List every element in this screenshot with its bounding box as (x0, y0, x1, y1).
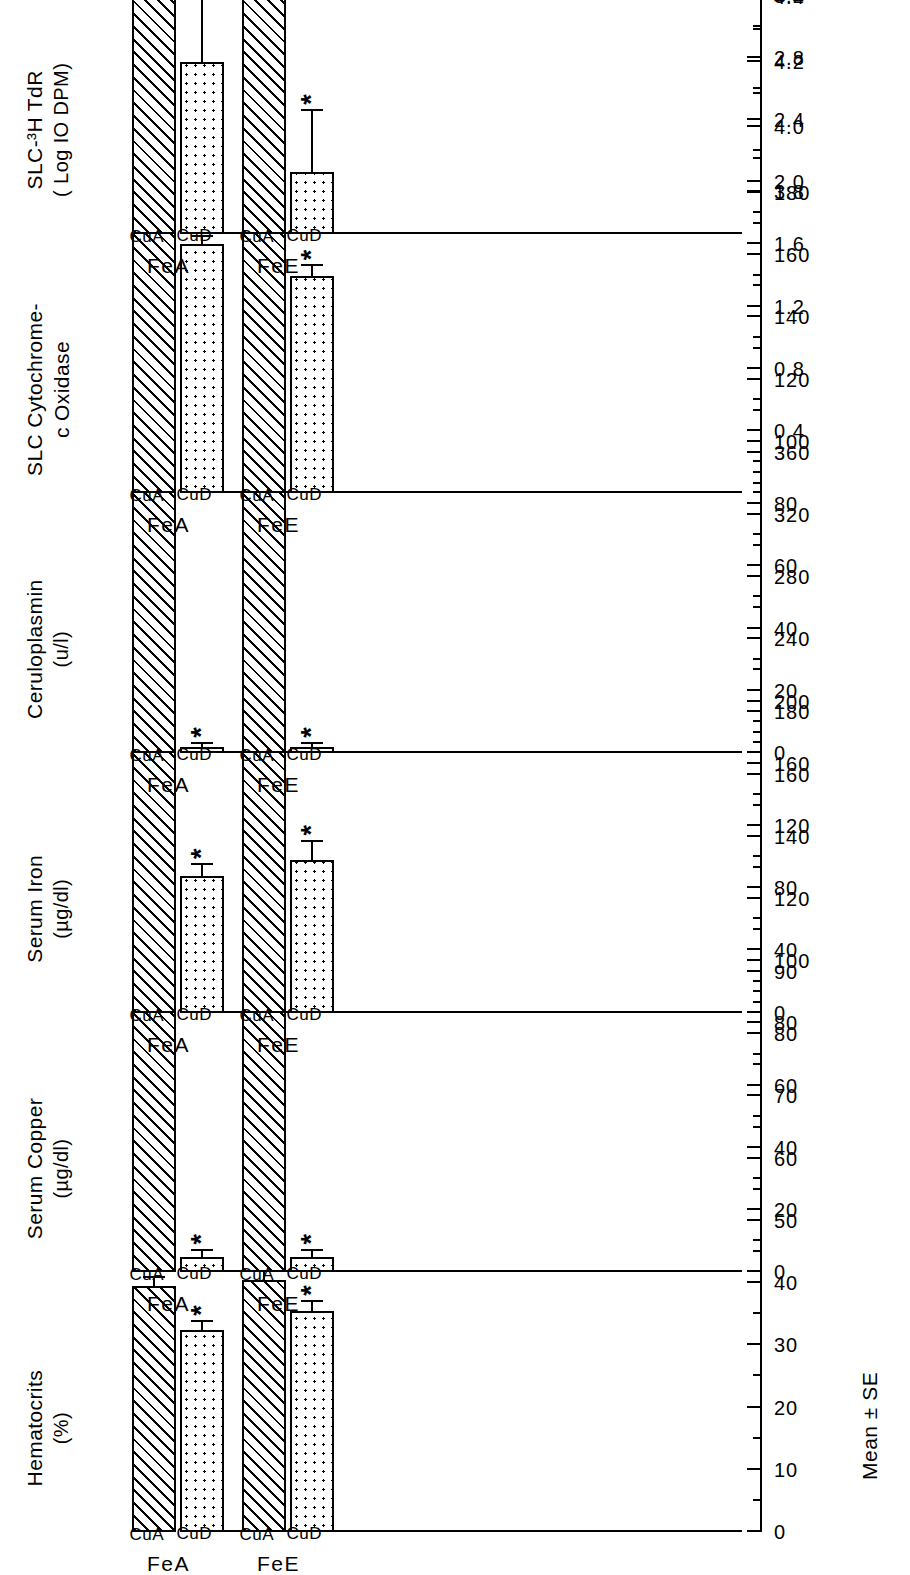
panel-title: SLC-³H TdR( Log IO DPM) (22, 0, 74, 260)
axis-tick-label: 0 (774, 1001, 786, 1024)
axis-tick-label: 60 (774, 1074, 798, 1097)
significance-asterisk: * (188, 727, 215, 738)
axis-tick-major (747, 689, 760, 691)
error-bar-cap (301, 1249, 323, 1251)
bar-fee-cud (290, 276, 334, 494)
panel-subtitle-text: ( Log IO DPM) (49, 0, 75, 260)
axis-tick-major (747, 1208, 760, 1210)
axis-tick-major (747, 948, 760, 950)
category-sublabel: CuA (129, 746, 164, 766)
significance-asterisk: * (188, 1234, 215, 1245)
axis-tick-label: 1.2 (774, 295, 805, 318)
axis-tick-major (747, 1084, 760, 1086)
error-bar-line (311, 1251, 313, 1257)
chart-panel-2: Serum Copper(µg/dl)020406080100120140160… (0, 1039, 910, 1299)
axis-tick-major (747, 367, 760, 369)
category-sublabel: CuD (176, 1524, 212, 1544)
panel-title: Serum Iron(µg/dl) (22, 779, 74, 1039)
significance-asterisk: * (298, 727, 325, 738)
axis-tick-major (747, 1530, 760, 1532)
bar-fea-cud (180, 1330, 224, 1532)
group-label-fee: FeE (257, 514, 300, 538)
error-bar-line (311, 111, 313, 173)
axis-tick-major (747, 60, 760, 62)
category-sublabel: CuD (176, 745, 212, 765)
axis-tick-minor (753, 1437, 760, 1439)
panel-title: SLC Cytochrome- c Oxidase (22, 260, 76, 520)
axis-tick-major (747, 564, 760, 566)
panel-title: Serum Copper(µg/dl) (22, 1039, 74, 1299)
axis-tick-major (747, 1468, 760, 1470)
panel-title-text: Serum Copper (22, 1039, 49, 1299)
axis-tick-label: 0 (774, 1261, 786, 1284)
bar-fea-cud (180, 62, 224, 234)
panel-subtitle-text: (%) (49, 1298, 75, 1558)
group-label-fea: FeA (147, 1293, 190, 1317)
axis-tick-major (747, 305, 760, 307)
axis-tick-label: 40 (774, 1136, 798, 1159)
category-sublabel: CuA (129, 1005, 164, 1025)
error-bar-line (201, 865, 203, 876)
axis-tick-label: 4.0 (774, 115, 805, 138)
axis-tick-minor (753, 1239, 760, 1241)
axis-tick-minor (753, 157, 760, 159)
significance-asterisk: * (298, 825, 325, 836)
axis-tick-minor (753, 1312, 760, 1314)
axis-tick-major (747, 1343, 760, 1345)
axis-tick-minor (753, 1053, 760, 1055)
category-sublabel: CuD (286, 1265, 322, 1285)
category-sublabel: CuD (176, 1265, 212, 1285)
error-bar-line (311, 266, 313, 275)
significance-asterisk: * (188, 848, 215, 859)
error-bar-cap (301, 264, 323, 266)
bar-fee-cua (242, 0, 286, 234)
bar-fee-cud (290, 860, 334, 1012)
category-sublabel: CuA (129, 1525, 164, 1545)
axis-tick-minor (753, 1115, 760, 1117)
group-label-fea: FeA (147, 773, 190, 797)
error-bar-cap (191, 1320, 213, 1322)
axis-tick-label: 20 (774, 679, 798, 702)
axis-tick-minor (753, 336, 760, 338)
axis-tick-major (747, 190, 760, 192)
axis-tick-label: 120 (774, 815, 810, 838)
bar-fea-cua (132, 1286, 176, 1532)
category-sublabel: CuA (129, 486, 164, 506)
category-sublabel: CuA (129, 1265, 164, 1285)
significance-asterisk: * (298, 94, 325, 105)
error-bar-line (201, 0, 203, 62)
category-sublabel: CuD (176, 1005, 212, 1025)
axis-tick-minor (753, 222, 760, 224)
category-sublabel: CuD (176, 486, 212, 506)
category-sublabel: CuD (286, 1524, 322, 1544)
significance-asterisk: * (188, 1305, 215, 1316)
group-label-fea: FeA (147, 514, 190, 538)
axis-tick-major (747, 824, 760, 826)
axis-tick-minor (753, 793, 760, 795)
category-sublabel: CuD (286, 226, 322, 246)
axis-tick-label: 20 (774, 1199, 798, 1222)
error-bar-line (311, 842, 313, 861)
axis-tick-label: 40 (774, 939, 798, 962)
panel-title-text: Serum Iron (22, 779, 49, 1039)
panel-title: Hematocrits(%) (22, 1298, 74, 1558)
axis-tick-minor (753, 460, 760, 462)
category-sublabel: CuA (239, 226, 274, 246)
error-bar-cap (191, 1249, 213, 1251)
axis-tick-label: 0.8 (774, 357, 805, 380)
axis-tick-label: 0.4 (774, 420, 805, 443)
axis-tick-minor (753, 1177, 760, 1179)
group-label-fea: FeA (147, 254, 190, 278)
error-bar-cap (301, 109, 323, 111)
axis-tick-minor (753, 720, 760, 722)
value-axis-line (760, 0, 762, 234)
group-label-fee: FeE (257, 1552, 300, 1575)
axis-tick-major (747, 1011, 760, 1013)
axis-tick-minor (753, 28, 760, 30)
axis-tick-major (747, 1270, 760, 1272)
bar-fee-cua (242, 1280, 286, 1532)
bar-fee-cud (290, 172, 334, 234)
bar-fea-cud (180, 244, 224, 493)
